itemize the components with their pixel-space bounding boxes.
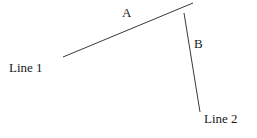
line-1-label: Line 1 — [9, 61, 43, 75]
geometry-figure: A B Line 1 Line 2 — [0, 0, 257, 138]
segment-b-label: B — [194, 37, 203, 51]
line-2-label: Line 2 — [204, 112, 238, 126]
segment-a-label: A — [122, 6, 131, 20]
